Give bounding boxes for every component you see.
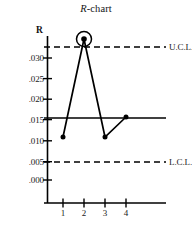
- x-tick-label-1: 1: [56, 208, 70, 218]
- data-point-1: [61, 135, 66, 140]
- data-point-3: [103, 135, 108, 140]
- ucl-label: U.C.L.: [169, 42, 192, 52]
- y-tick-label-020: .020: [14, 94, 44, 104]
- data-point-4: [124, 115, 129, 120]
- y-tick-label-010: .010: [14, 136, 44, 146]
- x-tick-label-3: 3: [98, 208, 112, 218]
- data-line: [63, 39, 126, 137]
- data-point-2: [81, 36, 87, 42]
- r-chart-figure: R-chart R: [0, 0, 192, 226]
- y-tick-label-000: .000: [14, 175, 44, 185]
- y-tick-label-015: .015: [14, 115, 44, 125]
- plot-area: [0, 0, 192, 226]
- y-tick-label-030: .030: [14, 53, 44, 63]
- y-tick-label-005: .005: [14, 157, 44, 167]
- y-tick-label-025: .025: [14, 74, 44, 84]
- x-tick-label-4: 4: [119, 208, 133, 218]
- x-tick-label-2: 2: [77, 208, 91, 218]
- lcl-label: L.C.L.: [169, 157, 192, 167]
